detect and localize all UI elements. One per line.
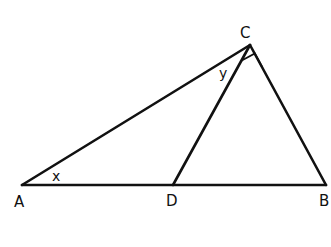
label-a: A — [14, 193, 25, 211]
angle-y-label: y — [219, 65, 227, 81]
triangle-figure: A D B C x y — [0, 0, 331, 247]
segment-cd — [173, 45, 250, 185]
segment-ac — [22, 45, 250, 185]
label-b: B — [319, 192, 329, 210]
label-d: D — [166, 192, 178, 210]
geometry-diagram: A D B C x y — [0, 0, 331, 247]
label-c: C — [240, 24, 250, 42]
angle-x-label: x — [52, 168, 60, 184]
